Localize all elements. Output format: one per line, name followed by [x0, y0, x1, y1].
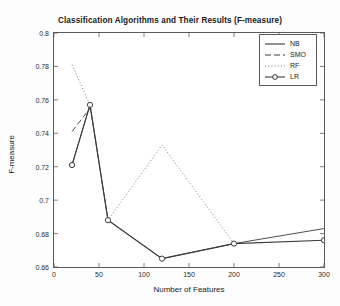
x-tick-label: 0 [52, 271, 56, 278]
y-tick-label: 0.68 [5, 230, 53, 237]
x-axis-label: Number of Features [53, 285, 325, 294]
legend-label: LR [287, 73, 299, 80]
legend-label: NB [287, 40, 300, 47]
y-axis-ticks: 0.660.680.70.720.740.760.780.8 [0, 32, 53, 268]
series-line-smo [72, 108, 90, 131]
legend-line-sample-icon [263, 39, 287, 49]
y-tick-label: 0.7 [5, 197, 53, 204]
series-line-lr [72, 105, 324, 259]
y-tick-label: 0.76 [5, 96, 53, 103]
x-tick-label: 150 [183, 271, 195, 278]
x-tick-label: 250 [273, 271, 285, 278]
series-line-nb [72, 105, 324, 259]
legend-item-lr[interactable]: LR [263, 71, 314, 82]
x-tick-label: 200 [228, 271, 240, 278]
y-tick-label: 0.78 [5, 63, 53, 70]
data-point-marker [231, 241, 236, 246]
legend-label: SMO [287, 51, 306, 58]
legend-line-sample-icon [263, 50, 287, 60]
y-tick-label: 0.8 [5, 30, 53, 37]
series-line-rf [72, 65, 234, 244]
y-tick-label: 0.72 [5, 163, 53, 170]
data-point-marker [69, 162, 74, 167]
x-tick-label: 100 [138, 271, 150, 278]
data-point-marker [87, 102, 92, 107]
legend-item-smo[interactable]: SMO [263, 49, 314, 60]
y-tick-label: 0.74 [5, 130, 53, 137]
x-axis-ticks: 050100150200250300 [53, 271, 325, 285]
data-point-marker [105, 218, 110, 223]
legend-item-nb[interactable]: NB [263, 38, 314, 49]
chart-figure: Classification Algorithms and Their Resu… [0, 0, 340, 306]
legend-line-sample-icon [263, 72, 287, 82]
legend-item-rf[interactable]: RF [263, 60, 314, 71]
y-tick-label: 0.66 [5, 264, 53, 271]
data-point-marker [159, 256, 164, 261]
x-tick-label: 300 [318, 271, 330, 278]
data-point-marker [321, 238, 324, 243]
x-tick-label: 50 [95, 271, 103, 278]
page-title: Classification Algorithms and Their Resu… [0, 16, 340, 25]
legend-label: RF [287, 62, 299, 69]
legend-line-sample-icon [263, 61, 287, 71]
chart-legend: NBSMORFLR [259, 34, 317, 86]
